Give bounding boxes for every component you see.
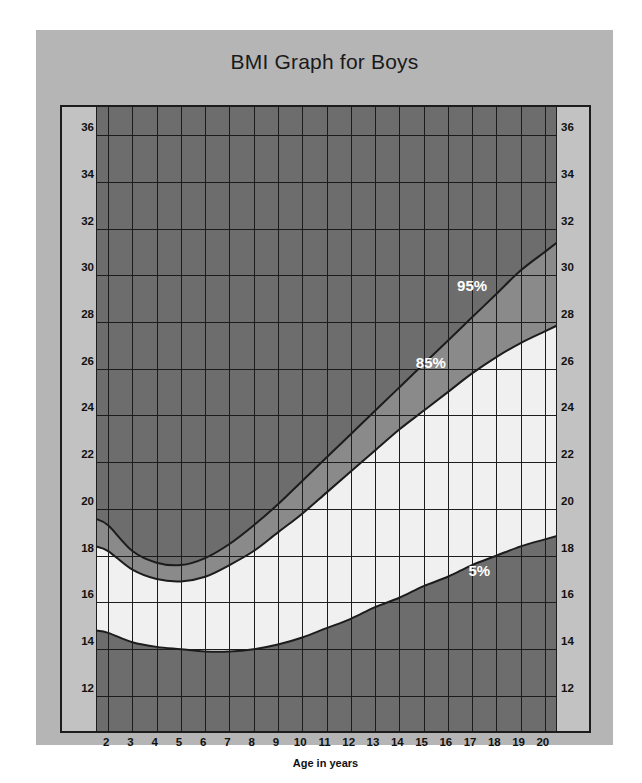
gridline-x-17 <box>472 107 473 731</box>
y-tick-label-left-34: 34 <box>81 168 94 182</box>
gridline-y-36 <box>96 135 557 136</box>
page-canvas: BMI Graph for Boys 95%85%5% 121416182022… <box>0 0 642 783</box>
x-tick-label-2: 2 <box>103 736 109 748</box>
x-tick-label-3: 3 <box>127 736 133 748</box>
gridline-x-16 <box>448 107 449 731</box>
x-axis-title: Age in years <box>60 757 591 769</box>
y-tick-label-right-28: 28 <box>561 308 574 322</box>
percentile-label-85pct: 85% <box>416 353 446 370</box>
gridline-y-18 <box>96 556 557 557</box>
x-tick-label-8: 8 <box>249 736 255 748</box>
gridline-x-4 <box>157 107 158 731</box>
gridline-y-32 <box>96 229 557 230</box>
gridline-y-34 <box>96 182 557 183</box>
chart-panel: BMI Graph for Boys 95%85%5% 121416182022… <box>36 30 613 745</box>
y-tick-label-left-16: 16 <box>81 588 94 602</box>
y-tick-label-left-14: 14 <box>81 635 94 649</box>
gridline-y-26 <box>96 369 557 370</box>
y-tick-label-right-22: 22 <box>561 448 574 462</box>
y-tick-label-left-26: 26 <box>81 355 94 369</box>
gridline-x-15 <box>424 107 425 731</box>
x-tick-label-16: 16 <box>439 736 452 748</box>
gridline-x-19 <box>521 107 522 731</box>
gridline-y-14 <box>96 649 557 650</box>
gridline-y-30 <box>96 275 557 276</box>
gridline-x-edge-1 <box>556 107 557 731</box>
y-tick-label-right-24: 24 <box>561 401 574 415</box>
x-axis-labels: 234567891011121314151617181920 <box>60 736 591 756</box>
y-tick-label-right-32: 32 <box>561 215 574 229</box>
x-tick-label-13: 13 <box>367 736 380 748</box>
y-tick-label-right-12: 12 <box>561 682 574 696</box>
gridline-x-5 <box>181 107 182 731</box>
plot-frame: 95%85%5% 12141618202224262830323436 1214… <box>60 105 591 733</box>
gridline-x-13 <box>375 107 376 731</box>
gridline-x-2 <box>108 107 109 731</box>
y-tick-label-right-16: 16 <box>561 588 574 602</box>
gridline-x-8 <box>254 107 255 731</box>
x-tick-label-9: 9 <box>273 736 279 748</box>
gridline-x-6 <box>205 107 206 731</box>
y-tick-label-left-24: 24 <box>81 401 94 415</box>
y-tick-label-right-26: 26 <box>561 355 574 369</box>
x-tick-label-14: 14 <box>391 736 404 748</box>
gridline-y-20 <box>96 509 557 510</box>
y-tick-label-right-20: 20 <box>561 495 574 509</box>
y-tick-label-left-22: 22 <box>81 448 94 462</box>
gridline-x-edge-0 <box>96 107 97 731</box>
y-tick-label-left-20: 20 <box>81 495 94 509</box>
gridline-y-24 <box>96 415 557 416</box>
gridline-x-10 <box>302 107 303 731</box>
percentile-label-95pct: 95% <box>457 276 487 293</box>
y-tick-label-left-32: 32 <box>81 215 94 229</box>
plot-grid-area: 95%85%5% <box>96 107 557 731</box>
y-tick-label-right-30: 30 <box>561 261 574 275</box>
y-tick-label-left-28: 28 <box>81 308 94 322</box>
x-tick-label-17: 17 <box>464 736 477 748</box>
gridline-y-16 <box>96 602 557 603</box>
x-tick-label-7: 7 <box>224 736 230 748</box>
y-tick-label-right-18: 18 <box>561 542 574 556</box>
page-title: BMI Graph for Boys <box>36 50 613 74</box>
x-tick-label-15: 15 <box>415 736 428 748</box>
gridline-y-22 <box>96 462 557 463</box>
y-tick-label-left-30: 30 <box>81 261 94 275</box>
x-tick-label-18: 18 <box>488 736 501 748</box>
x-tick-label-12: 12 <box>342 736 355 748</box>
x-tick-label-4: 4 <box>151 736 157 748</box>
x-tick-label-5: 5 <box>176 736 182 748</box>
y-tick-label-right-14: 14 <box>561 635 574 649</box>
gridline-x-3 <box>132 107 133 731</box>
y-tick-label-left-12: 12 <box>81 682 94 696</box>
gridline-x-18 <box>496 107 497 731</box>
x-tick-label-11: 11 <box>318 736 330 748</box>
y-tick-label-right-36: 36 <box>561 121 574 135</box>
gridline-x-14 <box>399 107 400 731</box>
y-tick-label-right-34: 34 <box>561 168 574 182</box>
x-tick-label-6: 6 <box>200 736 206 748</box>
gridline-y-28 <box>96 322 557 323</box>
x-tick-label-19: 19 <box>512 736 525 748</box>
x-tick-label-10: 10 <box>294 736 307 748</box>
gridline-x-9 <box>278 107 279 731</box>
y-tick-label-left-18: 18 <box>81 542 94 556</box>
gridline-x-12 <box>351 107 352 731</box>
x-tick-label-20: 20 <box>536 736 549 748</box>
gridline-x-7 <box>229 107 230 731</box>
gridline-x-11 <box>327 107 328 731</box>
y-tick-label-left-36: 36 <box>81 121 94 135</box>
gridline-x-20 <box>545 107 546 731</box>
percentile-label-5pct: 5% <box>469 561 491 578</box>
gridline-y-12 <box>96 696 557 697</box>
